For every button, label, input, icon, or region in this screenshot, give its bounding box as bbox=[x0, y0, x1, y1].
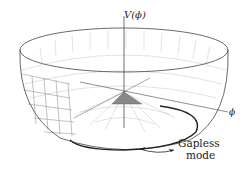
horizontal-axis-label: ϕ bbox=[229, 107, 235, 117]
vertical-axis-label: V(ϕ) bbox=[124, 9, 146, 20]
annotation-line1: Gapless bbox=[178, 137, 220, 149]
double-arrow-icon bbox=[140, 149, 174, 152]
annotation-line2: mode bbox=[186, 149, 215, 161]
diagram: V(ϕ) ϕ Gapless mode bbox=[0, 0, 248, 169]
